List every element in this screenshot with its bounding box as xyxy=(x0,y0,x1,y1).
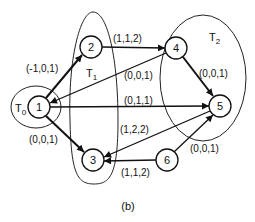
edge-label-2-4: (1,1,2) xyxy=(113,33,142,44)
set-t1-label: T1 xyxy=(86,67,98,82)
edge-6-3 xyxy=(104,160,156,161)
edge-label-4-5: (0,0,1) xyxy=(199,68,228,79)
node-6: 6 xyxy=(156,149,178,171)
edge-label-1-2: (-1,0,1) xyxy=(26,63,58,74)
edge-label-4-1: (0,0,1) xyxy=(124,70,153,81)
node-1: 1 xyxy=(28,96,50,118)
node-2-label: 2 xyxy=(88,41,94,53)
node-5-label: 5 xyxy=(217,100,223,112)
edge-label-1-3: (0,0,1) xyxy=(29,134,58,145)
graph-diagram: T0 T1 T2 (-1,0,1) (1,1,2) (0,0,1) (0,0,1… xyxy=(0,0,255,222)
edge-label-6-5: (0,0,1) xyxy=(190,143,219,154)
node-2: 2 xyxy=(80,36,102,58)
edge-2-4 xyxy=(102,47,165,48)
edge-label-6-3: (1,1,2) xyxy=(121,167,150,178)
node-3-label: 3 xyxy=(90,154,96,166)
node-4: 4 xyxy=(165,37,187,59)
set-t2-label: T2 xyxy=(209,31,221,46)
node-4-label: 4 xyxy=(173,42,179,54)
edge-label-1-5: (0,1,1) xyxy=(124,95,153,106)
node-3: 3 xyxy=(82,149,104,171)
set-t0-label: T0 xyxy=(15,102,27,117)
edge-1-5 xyxy=(50,106,209,107)
node-1-label: 1 xyxy=(36,101,42,113)
edge-label-5-3: (1,2,2) xyxy=(120,124,149,135)
node-6-label: 6 xyxy=(164,154,170,166)
node-5: 5 xyxy=(209,95,231,117)
figure-caption: (b) xyxy=(121,200,134,212)
